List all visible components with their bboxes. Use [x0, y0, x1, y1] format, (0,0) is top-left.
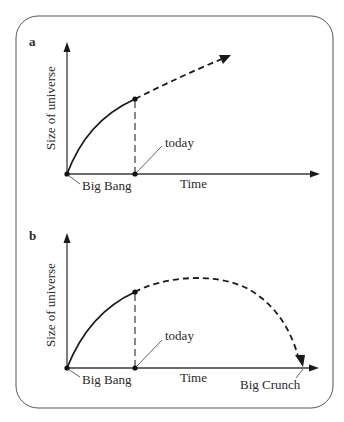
y-axis-label-a: Size of universe	[43, 66, 58, 150]
today-point-curve-a	[132, 96, 137, 101]
x-axis-arrow-icon	[309, 365, 319, 372]
figure-frame	[16, 16, 333, 408]
panel-label-a: a	[29, 34, 36, 49]
panel-b: b Size of universe Big Bang today Time B…	[29, 228, 319, 392]
panel-a: a Size of universe Big Bang today Time	[29, 34, 320, 193]
panel-label-b: b	[29, 228, 36, 243]
y-axis-arrow-icon	[64, 42, 71, 52]
big-bang-leader-b	[68, 369, 80, 377]
today-leader-b	[137, 340, 162, 366]
future-recollapse-curve-b	[135, 278, 298, 356]
y-axis-label-b: Size of universe	[43, 263, 58, 347]
universe-expansion-diagram: a Size of universe Big Bang today Time b	[0, 0, 344, 422]
big-bang-label-b: Big Bang	[82, 372, 132, 387]
y-axis-arrow-icon	[64, 233, 71, 243]
big-bang-label-a: Big Bang	[82, 178, 132, 193]
today-leader-a	[137, 146, 162, 172]
today-point-axis-a	[132, 171, 137, 176]
future-expansion-curve-a	[135, 59, 222, 99]
today-label-a: today	[165, 135, 194, 150]
today-point-curve-b	[132, 289, 137, 294]
past-expansion-curve-a	[67, 99, 135, 174]
big-bang-leader-a	[68, 175, 80, 184]
today-point-axis-b	[132, 365, 137, 370]
x-axis-label-b: Time	[180, 370, 207, 385]
big-crunch-arrow-icon	[295, 355, 305, 367]
x-axis-arrow-icon	[310, 171, 320, 178]
x-axis-label-a: Time	[180, 176, 207, 191]
today-label-b: today	[165, 328, 194, 343]
past-expansion-curve-b	[67, 292, 135, 368]
big-crunch-label-b: Big Crunch	[240, 377, 301, 392]
